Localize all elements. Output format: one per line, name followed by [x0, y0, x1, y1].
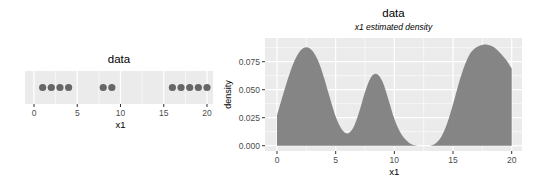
dot-plot-title: data	[108, 53, 131, 65]
x-tick-label: 20	[202, 108, 212, 118]
x-tick-label: 20	[507, 155, 517, 165]
chart-figure: data05101520x1datax1 estimated density05…	[0, 0, 541, 187]
data-point	[65, 84, 72, 91]
x-tick-label: 5	[75, 108, 80, 118]
x-tick-label: 0	[32, 108, 37, 118]
data-point	[108, 84, 115, 91]
data-point	[177, 84, 184, 91]
data-point	[195, 84, 202, 91]
density-plot: datax1 estimated density051015200.0000.0…	[223, 7, 522, 177]
y-axis-label: density	[223, 80, 233, 109]
data-point	[203, 84, 210, 91]
y-tick-label: 0.075	[239, 57, 261, 67]
x-tick-label: 0	[275, 155, 280, 165]
chart-canvas: data05101520x1datax1 estimated density05…	[0, 0, 541, 187]
dot-plot: data05101520x1	[25, 53, 213, 130]
x-tick-label: 10	[390, 155, 400, 165]
density-plot-title: data	[382, 7, 405, 19]
y-tick-label: 0.025	[239, 113, 261, 123]
data-point	[100, 84, 107, 91]
x-axis-label: x1	[389, 166, 399, 177]
x-axis-label: x1	[115, 119, 125, 130]
x-tick-label: 15	[448, 155, 458, 165]
data-point	[56, 84, 63, 91]
density-plot-subtitle: x1 estimated density	[354, 22, 433, 32]
x-tick-label: 10	[116, 108, 126, 118]
data-point	[186, 84, 193, 91]
data-point	[48, 84, 55, 91]
x-tick-label: 5	[333, 155, 338, 165]
y-tick-label: 0.000	[239, 141, 261, 151]
data-point	[169, 84, 176, 91]
data-point	[39, 84, 46, 91]
x-tick-label: 15	[159, 108, 169, 118]
y-tick-label: 0.050	[239, 85, 261, 95]
